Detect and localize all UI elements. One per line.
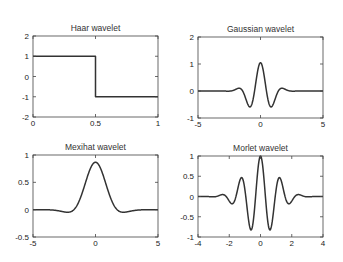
y-tick-label: -1 — [187, 114, 195, 123]
y-tick-label: -0.5 — [180, 213, 194, 222]
x-tick-label: 0 — [93, 239, 98, 248]
axes-box — [33, 155, 158, 237]
y-tick-label: 2 — [25, 32, 30, 41]
x-tick-label: -2 — [226, 239, 234, 248]
x-tick-label: 0 — [31, 119, 36, 128]
subplot-title: Morlet wavelet — [233, 143, 288, 153]
y-tick-label: 0 — [190, 193, 195, 202]
x-tick-label: 0 — [258, 239, 263, 248]
y-tick-label: 0.5 — [18, 178, 30, 187]
x-tick-label: 0.5 — [90, 119, 102, 128]
y-tick-label: 0 — [190, 87, 195, 96]
x-tick-label: -5 — [29, 239, 37, 248]
x-tick-label: 2 — [290, 239, 295, 248]
y-tick-label: -1 — [187, 233, 195, 242]
y-tick-label: 1 — [190, 60, 195, 69]
wavelet-curve — [33, 162, 158, 212]
y-tick-label: 1 — [25, 151, 30, 160]
y-tick-label: 1 — [25, 52, 30, 61]
y-tick-label: -2 — [22, 113, 30, 122]
y-tick-label: 0 — [25, 206, 30, 215]
x-tick-label: 5 — [321, 120, 326, 129]
y-tick-label: 1 — [190, 152, 195, 161]
wavelet-curve — [33, 56, 158, 97]
y-tick-label: 2 — [190, 33, 195, 42]
y-tick-label: -0.5 — [15, 233, 29, 242]
x-tick-label: 4 — [321, 239, 326, 248]
subplot-title: Gaussian wavelet — [227, 24, 295, 34]
wavelet-curve — [198, 156, 323, 230]
x-tick-label: -4 — [194, 239, 202, 248]
x-tick-label: 5 — [156, 239, 161, 248]
x-tick-label: 1 — [156, 119, 161, 128]
subplot-gaussian: Gaussian wavelet210-1-505 — [187, 24, 326, 129]
subplot-title: Haar wavelet — [71, 23, 121, 33]
axes-box — [198, 37, 323, 118]
subplot-mexihat: Mexihat wavelet10.50-0.5-505 — [15, 142, 161, 248]
x-tick-label: 0 — [258, 120, 263, 129]
subplot-haar: Haar wavelet210-1-200.51 — [22, 23, 161, 128]
wavelet-figure: Haar wavelet210-1-200.51 Gaussian wavele… — [0, 0, 343, 262]
y-tick-label: -1 — [22, 93, 30, 102]
y-tick-label: 0.5 — [183, 172, 195, 181]
y-tick-label: 0 — [25, 73, 30, 82]
subplot-morlet: Morlet wavelet10.50-0.5-1-4-2024 — [180, 143, 326, 248]
wavelet-curve — [198, 63, 323, 107]
subplot-title: Mexihat wavelet — [65, 142, 127, 152]
x-tick-label: -5 — [194, 120, 202, 129]
